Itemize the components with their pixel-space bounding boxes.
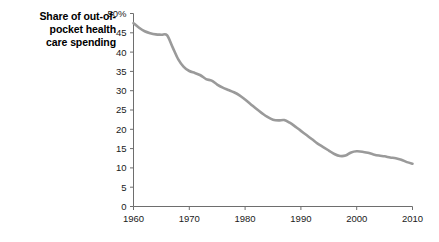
y-axis-tick-label: 40 (116, 47, 127, 58)
line-chart-plot: 05101520253035404550% 196019701980199020… (0, 0, 439, 242)
x-axis-tick-label: 1980 (235, 213, 256, 224)
x-axis-tick-label: 1960 (123, 213, 144, 224)
y-axis-tick-label: 50% (107, 8, 127, 19)
x-axis-tick-label: 1970 (179, 213, 200, 224)
chart-figure: Share of out-of- pocket health care spen… (0, 0, 439, 242)
y-axis-tick-label: 45 (116, 27, 127, 38)
data-series-group (134, 23, 413, 164)
y-axis-tick-label: 0 (121, 201, 126, 212)
y-axis-tick-label: 5 (121, 182, 126, 193)
y-axis-tick-label: 35 (116, 66, 127, 77)
y-axis-tick-label: 25 (116, 104, 127, 115)
x-axis-tick-label: 1990 (290, 213, 311, 224)
x-axis-tick-label: 2010 (402, 213, 423, 224)
y-axis-tick-label: 30 (116, 85, 127, 96)
y-axis-tick-label: 10 (116, 162, 127, 173)
x-axis-tick-label: 2000 (346, 213, 367, 224)
y-axis: 05101520253035404550% (107, 8, 133, 212)
data-line-out-of-pocket-share (134, 23, 413, 164)
y-axis-tick-label: 20 (116, 124, 127, 135)
x-axis: 196019701980199020002010 (123, 207, 423, 224)
y-axis-tick-label: 15 (116, 143, 127, 154)
